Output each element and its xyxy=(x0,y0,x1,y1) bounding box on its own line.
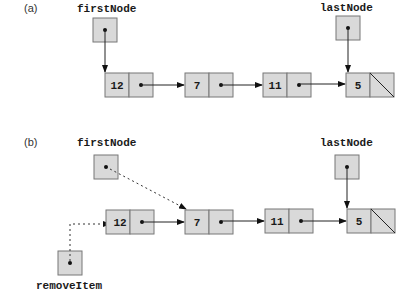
first-node-label: firstNode xyxy=(77,137,137,149)
node-value: 5 xyxy=(356,216,363,228)
list-node: 7 xyxy=(185,73,262,97)
list-node: 12 xyxy=(105,73,184,97)
node-value: 11 xyxy=(270,216,284,228)
list-node: 11 xyxy=(265,209,346,233)
list-node-tail: 5 xyxy=(347,209,395,233)
node-value: 12 xyxy=(113,217,126,229)
node-value: 5 xyxy=(355,80,362,92)
list-node: 11 xyxy=(263,73,345,97)
node-value: 7 xyxy=(194,217,201,229)
last-node-pointer xyxy=(335,155,359,208)
part-b-label: (b) xyxy=(24,136,37,148)
first-node-label: firstNode xyxy=(77,3,137,15)
remove-item-pointer: removeItem xyxy=(36,224,110,292)
part-a: (a) firstNode lastNode 12 7 xyxy=(24,2,394,97)
list-node: 12 xyxy=(106,210,184,234)
remove-item-label: removeItem xyxy=(36,280,102,292)
list-node-tail: 5 xyxy=(346,73,394,97)
list-node: 7 xyxy=(185,210,264,234)
last-node-label: lastNode xyxy=(320,137,373,149)
node-value: 12 xyxy=(110,80,123,92)
node-value: 11 xyxy=(268,80,282,92)
linked-list-diagram: (a) firstNode lastNode 12 7 xyxy=(0,0,416,303)
first-node-pointer xyxy=(93,18,117,72)
last-node-pointer xyxy=(336,16,360,72)
first-node-pointer xyxy=(94,155,186,209)
last-node-label: lastNode xyxy=(320,2,373,14)
part-a-label: (a) xyxy=(24,2,37,14)
node-value: 7 xyxy=(194,80,201,92)
part-b: (b) firstNode lastNode removeItem 12 xyxy=(24,136,395,292)
